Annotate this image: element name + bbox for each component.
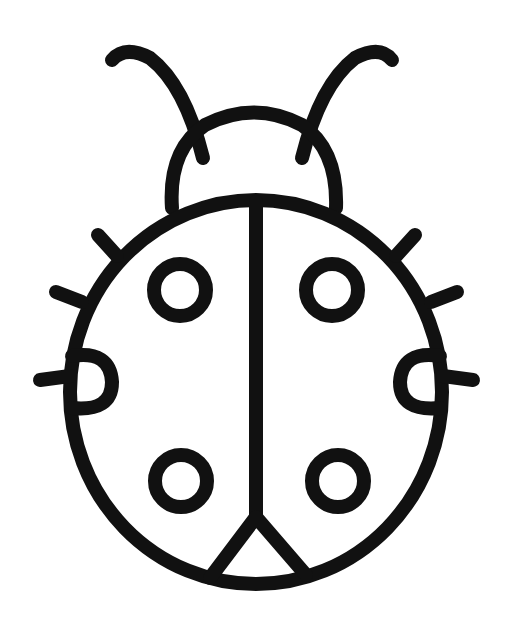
bristle xyxy=(40,376,70,380)
bristle xyxy=(431,292,457,302)
spot xyxy=(155,455,207,507)
spot xyxy=(312,455,364,507)
ladybug-illustration xyxy=(0,0,513,627)
bristle xyxy=(56,292,82,302)
bristle xyxy=(98,235,117,256)
spot xyxy=(154,264,206,316)
bristle xyxy=(396,235,415,256)
bristle xyxy=(443,376,473,380)
spot xyxy=(306,264,358,316)
tail-wedge xyxy=(210,517,306,578)
